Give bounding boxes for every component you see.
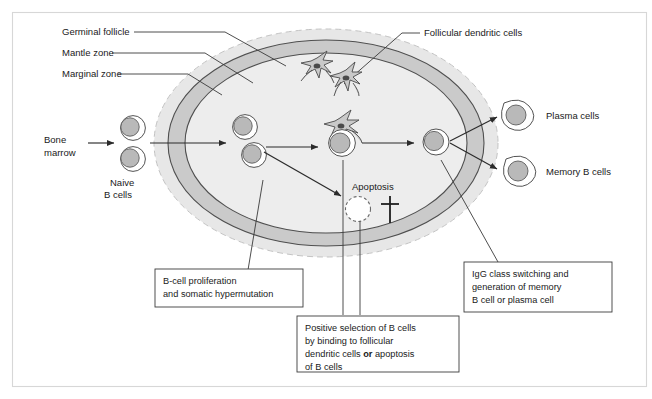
box-selection-line-0: Positive selection of B cells xyxy=(305,323,416,333)
box-igg-line-0: IgG class switching and xyxy=(472,269,569,279)
naive-b-cell-2 xyxy=(121,147,146,172)
box-positive-selection[interactable]: Positive selection of B cells by binding… xyxy=(297,316,459,372)
box-proliferation-line-1: and somatic hypermutation xyxy=(163,289,273,299)
naive-b-cell-1 xyxy=(121,116,146,141)
box-selection-line-2: dendritic cells or apoptosis xyxy=(305,349,415,359)
follicle-b-cell-2 xyxy=(242,143,267,168)
memory-b-cell xyxy=(503,156,535,186)
label-apoptosis: Apoptosis xyxy=(352,181,394,192)
label-bone-marrow-line1: Bone xyxy=(44,134,66,145)
box-proliferation-line-0: B-cell proliferation xyxy=(163,276,237,286)
figure-canvas: Germinal follicle Mantle zone Marginal z… xyxy=(0,0,652,399)
box-selection-line-3: of B cells xyxy=(305,362,343,372)
box-igg-line-1: generation of memory xyxy=(472,282,562,292)
box-selection-line-2-pre: dendritic cells xyxy=(305,349,363,359)
label-follicular-dendritic-cells: Follicular dendritic cells xyxy=(424,27,522,38)
exit-b-cell xyxy=(423,129,449,155)
label-naive-line2: B cells xyxy=(104,189,132,200)
label-memory-b-cells: Memory B cells xyxy=(546,166,611,177)
box-igg-switching[interactable]: IgG class switching and generation of me… xyxy=(464,262,612,312)
box-selection-line-2-post: apoptosis xyxy=(372,349,414,359)
box-igg-line-2: B cell or plasma cell xyxy=(472,295,554,305)
apoptotic-cell-icon xyxy=(346,197,371,222)
label-plasma-cells: Plasma cells xyxy=(546,110,600,121)
label-mantle-zone: Mantle zone xyxy=(62,47,114,58)
label-marginal-zone: Marginal zone xyxy=(62,68,122,79)
box-proliferation[interactable]: B-cell proliferation and somatic hypermu… xyxy=(155,269,303,307)
follicle-b-cell-1 xyxy=(233,115,258,140)
plasma-cell xyxy=(501,100,533,130)
box-selection-line-2-bold: or xyxy=(363,349,373,359)
box-selection-line-1: by binding to follicular xyxy=(305,336,393,346)
label-naive-line1: Naive xyxy=(110,177,134,188)
diagram-svg: Germinal follicle Mantle zone Marginal z… xyxy=(0,0,652,399)
label-germinal-follicle: Germinal follicle xyxy=(62,26,130,37)
label-bone-marrow-line2: marrow xyxy=(44,147,76,158)
